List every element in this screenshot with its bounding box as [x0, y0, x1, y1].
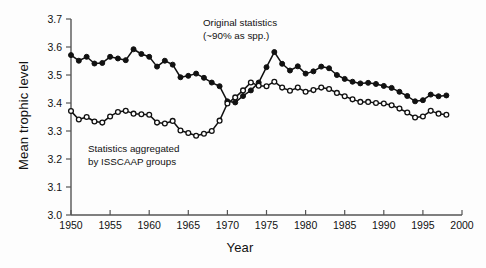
annotation-original-statistics-line1: Original statistics	[203, 17, 277, 28]
data-point-filled	[311, 69, 316, 74]
data-point-open	[327, 87, 332, 92]
x-tick-label: 1985	[333, 219, 357, 231]
data-point-filled	[209, 80, 214, 85]
x-tick-label: 1980	[294, 219, 318, 231]
data-point-open	[389, 103, 394, 108]
data-point-open	[444, 112, 449, 117]
data-point-filled	[397, 89, 402, 94]
data-point-filled	[139, 52, 144, 57]
x-tick-label: 1955	[98, 219, 122, 231]
data-point-filled	[334, 73, 339, 78]
data-point-filled	[178, 75, 183, 80]
data-point-filled	[295, 64, 300, 69]
x-tick-label: 1960	[138, 219, 162, 231]
data-point-filled	[405, 94, 410, 99]
x-axis: 1950195519601965197019751980198519901995…	[59, 210, 474, 231]
data-point-filled	[389, 85, 394, 90]
data-point-open	[264, 84, 269, 89]
y-tick-label: 3.4	[47, 97, 62, 109]
data-point-filled	[123, 58, 128, 63]
data-point-filled	[100, 60, 105, 65]
data-point-filled	[287, 68, 292, 73]
data-point-open	[303, 89, 308, 94]
data-point-filled	[280, 61, 285, 66]
y-axis: 3.03.13.23.33.43.53.63.7	[47, 13, 71, 221]
data-point-filled	[147, 54, 152, 59]
y-tick-label: 3.6	[47, 41, 62, 53]
data-point-open	[421, 114, 426, 119]
data-point-open	[123, 108, 128, 113]
data-point-open	[366, 99, 371, 104]
data-point-open	[436, 111, 441, 116]
data-point-open	[319, 85, 324, 90]
data-point-open	[288, 88, 293, 93]
data-point-open	[374, 101, 379, 106]
annotation-isscaap-line2: by ISSCAAP groups	[88, 156, 176, 167]
data-point-filled	[69, 53, 74, 58]
data-point-open	[241, 88, 246, 93]
data-point-filled	[108, 54, 113, 59]
x-tick-label: 2000	[450, 219, 474, 231]
data-point-filled	[217, 84, 222, 89]
data-point-filled	[428, 92, 433, 97]
data-point-open	[92, 119, 97, 124]
figure-container: Mean trophic level Year 3.03.13.23.33.43…	[0, 0, 486, 268]
data-point-open	[428, 108, 433, 113]
data-point-filled	[84, 54, 89, 59]
x-tick-label: 1950	[59, 219, 83, 231]
data-point-filled	[327, 66, 332, 71]
data-point-filled	[115, 56, 120, 61]
data-series-group	[69, 47, 449, 138]
data-point-open	[248, 80, 253, 85]
data-point-filled	[186, 73, 191, 78]
data-point-filled	[201, 75, 206, 80]
data-point-open	[186, 131, 191, 136]
data-point-open	[162, 121, 167, 126]
data-point-filled	[241, 94, 246, 99]
data-point-filled	[248, 88, 253, 93]
data-point-filled	[373, 81, 378, 86]
data-point-open	[178, 128, 183, 133]
data-point-filled	[436, 94, 441, 99]
y-tick-label: 3.7	[47, 13, 62, 25]
data-point-open	[84, 115, 89, 120]
data-point-filled	[194, 71, 199, 76]
data-point-open	[358, 99, 363, 104]
x-tick-label: 1990	[372, 219, 396, 231]
annotation-isscaap-line1: Statistics aggregated	[88, 143, 180, 154]
data-point-open	[69, 109, 74, 114]
data-point-open	[295, 85, 300, 90]
data-point-open	[342, 94, 347, 99]
data-point-open	[280, 85, 285, 90]
data-point-open	[413, 115, 418, 120]
data-point-open	[381, 101, 386, 106]
data-point-open	[147, 112, 152, 117]
data-point-filled	[272, 50, 277, 55]
y-tick-label: 3.5	[47, 69, 62, 81]
data-point-open	[194, 133, 199, 138]
series-1	[69, 47, 449, 105]
line-chart-plot: 3.03.13.23.33.43.53.63.7 195019551960196…	[0, 0, 486, 268]
data-point-filled	[420, 98, 425, 103]
data-point-filled	[76, 58, 81, 63]
data-point-open	[131, 111, 136, 116]
data-point-filled	[162, 58, 167, 63]
x-tick-label: 1975	[255, 219, 279, 231]
data-point-open	[256, 83, 261, 88]
data-point-filled	[155, 64, 160, 69]
x-tick-label: 1970	[216, 219, 240, 231]
data-point-filled	[319, 64, 324, 69]
data-point-open	[334, 91, 339, 96]
data-point-open	[116, 110, 121, 115]
x-tick-label: 1965	[177, 219, 201, 231]
x-tick-label: 1995	[411, 219, 435, 231]
data-point-filled	[303, 71, 308, 76]
data-point-open	[217, 118, 222, 123]
data-point-filled	[444, 93, 449, 98]
data-point-filled	[381, 83, 386, 88]
data-point-open	[397, 106, 402, 111]
data-point-filled	[233, 100, 238, 105]
data-point-open	[225, 101, 230, 106]
data-point-open	[170, 119, 175, 124]
data-point-filled	[170, 62, 175, 67]
